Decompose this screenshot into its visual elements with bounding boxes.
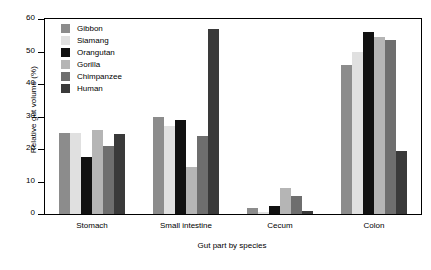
bar <box>59 133 70 214</box>
bar <box>164 126 175 214</box>
bar <box>175 120 186 214</box>
bar <box>258 212 269 214</box>
bar <box>103 146 114 214</box>
legend-swatch-icon <box>61 36 70 45</box>
y-axis-tick: 30 <box>38 117 45 118</box>
y-axis-tick: 40 <box>38 84 45 85</box>
bar <box>352 52 363 215</box>
bar <box>374 37 385 214</box>
y-axis-tick: 10 <box>38 182 45 183</box>
y-axis-tick-label: 30 <box>26 111 35 120</box>
legend-swatch-icon <box>61 48 70 57</box>
bar <box>363 32 374 214</box>
chart-legend: GibbonSiamangOrangutanGorillaChimpanzeeH… <box>61 23 122 94</box>
legend-item: Siamang <box>61 35 122 46</box>
y-axis-tick: 50 <box>38 52 45 53</box>
legend-label: Gorilla <box>77 60 100 69</box>
legend-label: Gibbon <box>77 24 103 33</box>
x-axis-group-label: Cecum <box>267 221 292 230</box>
bar <box>208 29 219 214</box>
bar-group: Colon <box>327 19 421 214</box>
legend-item: Orangutan <box>61 47 122 58</box>
x-axis-group-label: Colon <box>364 221 385 230</box>
y-axis-tick-label: 40 <box>26 78 35 87</box>
legend-item: Chimpanzee <box>61 71 122 82</box>
bar-group: Small intestine <box>139 19 233 214</box>
bar <box>280 188 291 214</box>
bar <box>197 136 208 214</box>
bar <box>186 167 197 214</box>
plot-area: 0102030405060 StomachSmall intestineCecu… <box>44 18 422 215</box>
y-axis-tick: 0 <box>38 214 45 215</box>
legend-item: Gorilla <box>61 59 122 70</box>
legend-swatch-icon <box>61 72 70 81</box>
legend-swatch-icon <box>61 60 70 69</box>
x-axis-group-label: Stomach <box>76 221 108 230</box>
bar <box>70 133 81 214</box>
legend-swatch-icon <box>61 24 70 33</box>
x-axis-group-label: Small intestine <box>160 221 212 230</box>
y-axis-tick-label: 20 <box>26 143 35 152</box>
bar <box>291 196 302 214</box>
legend-swatch-icon <box>61 84 70 93</box>
bar <box>114 134 125 214</box>
legend-label: Chimpanzee <box>77 72 122 81</box>
legend-item: Gibbon <box>61 23 122 34</box>
y-axis-tick-label: 50 <box>26 46 35 55</box>
bar <box>247 208 258 215</box>
y-axis-tick-label: 0 <box>31 208 35 217</box>
y-axis-tick-label: 10 <box>26 176 35 185</box>
bar <box>302 211 313 214</box>
bar <box>92 130 103 215</box>
x-axis-title: Gut part by species <box>44 241 420 250</box>
y-axis-tick-label: 60 <box>26 13 35 22</box>
bar <box>385 40 396 214</box>
bar <box>81 157 92 214</box>
bar <box>341 65 352 215</box>
bar-group: Cecum <box>233 19 327 214</box>
y-axis-tick: 20 <box>38 149 45 150</box>
y-axis-tick: 60 <box>38 19 45 20</box>
bar <box>396 151 407 214</box>
legend-item: Human <box>61 83 122 94</box>
bar <box>153 117 164 215</box>
legend-label: Siamang <box>77 36 109 45</box>
bar-chart-figure: Relative gut volume (%) 0102030405060 St… <box>0 0 431 270</box>
bar <box>269 206 280 214</box>
legend-label: Orangutan <box>77 48 115 57</box>
legend-label: Human <box>77 84 103 93</box>
